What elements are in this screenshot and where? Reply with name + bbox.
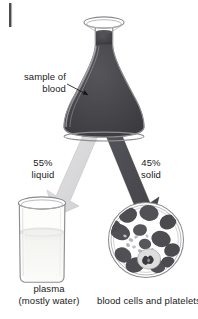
label-sample-line-2: blood <box>6 83 66 95</box>
caption-blood-cells-and-platelets: blood cells and platelets <box>97 295 197 307</box>
label-right-phase: solid <box>124 169 178 181</box>
label-sample-line-1: sample of <box>6 71 66 83</box>
caption-plasma: plasma (mostly water) <box>1 283 97 306</box>
label-left-percent: 55% <box>16 157 70 169</box>
label-percent-solid: 45% solid <box>124 157 178 180</box>
label-sample-of-blood: sample of blood <box>6 71 66 94</box>
caption-plasma-line-1: plasma <box>1 283 97 295</box>
caption-plasma-line-2: (mostly water) <box>1 295 97 307</box>
cell-dish <box>106 203 184 278</box>
label-left-phase: liquid <box>16 169 70 181</box>
label-right-percent: 45% <box>124 157 178 169</box>
figure-canvas: sample of blood 55% liquid 45% solid pla… <box>0 0 198 319</box>
erlenmeyer-flask <box>64 17 144 141</box>
label-percent-liquid: 55% liquid <box>16 157 70 180</box>
corner-rule-mark <box>9 3 12 27</box>
beaker-plasma <box>16 197 68 286</box>
